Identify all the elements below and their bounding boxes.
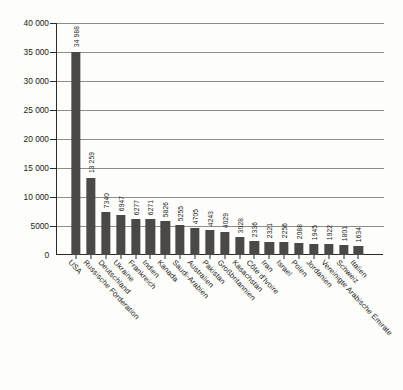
bar (116, 215, 125, 255)
bar-group: 2321 (262, 23, 277, 255)
bar-group: 6947 (113, 23, 128, 255)
bar-group: 5255 (173, 23, 188, 255)
bar-group: 1634 (351, 23, 366, 255)
bar-chart-figure: 0500010 00015 00020 00025 00030 00035 00… (0, 0, 403, 390)
bar-value-label: 6271 (147, 200, 154, 215)
bar (190, 228, 199, 255)
bar-group: 3028 (232, 23, 247, 255)
bar-value-label: 2088 (296, 224, 303, 239)
bar (324, 244, 333, 255)
bar-value-label: 7340 (102, 193, 109, 208)
y-axis-tick-label: 35 000 (0, 47, 56, 57)
bar-value-label: 6947 (117, 196, 124, 211)
bar-value-label: 1801 (340, 225, 347, 240)
bar (265, 242, 274, 255)
bar-group: 13 259 (83, 23, 98, 255)
bar-value-label: 2336 (251, 222, 258, 237)
bar-value-label: 3028 (236, 218, 243, 233)
bar-group: 2088 (292, 23, 307, 255)
bar-group: 4029 (217, 23, 232, 255)
bar-group: 2336 (247, 23, 262, 255)
bar (339, 245, 348, 255)
bar (101, 212, 110, 255)
bar-value-label: 4029 (221, 213, 228, 228)
bar-group: 34 988 (69, 23, 84, 255)
bar (205, 230, 214, 255)
bar-group: 5826 (158, 23, 173, 255)
bar (175, 225, 184, 255)
y-axis-tick-label: 15 000 (0, 163, 56, 173)
y-axis-tick-label: 40 000 (0, 18, 56, 28)
bar-group: 4243 (202, 23, 217, 255)
bar (309, 244, 318, 255)
y-axis-tick-label: 25 000 (0, 105, 56, 115)
bar-value-label: 6277 (132, 199, 139, 214)
bar-value-label: 1634 (355, 226, 362, 241)
bar-group: 1922 (321, 23, 336, 255)
bar (161, 221, 170, 255)
bar-value-label: 5826 (162, 202, 169, 217)
bar (235, 237, 244, 255)
bar-value-label: 2256 (281, 223, 288, 238)
y-axis-tick-label: 30 000 (0, 76, 56, 86)
bar-value-label: 34 988 (73, 26, 80, 47)
bar-group: 7340 (98, 23, 113, 255)
bar-value-label: 1922 (325, 225, 332, 240)
x-axis-category-label: USA (66, 258, 83, 276)
y-axis-tick-label: 10 000 (0, 192, 56, 202)
y-axis-tick-label: 0 (0, 250, 56, 260)
bar (131, 219, 140, 255)
bar (71, 52, 80, 255)
bar-value-label: 4243 (206, 211, 213, 226)
bars-layer: 34 98813 2597340694762776271582652554705… (56, 23, 383, 255)
y-axis-tick-label: 5000 (0, 221, 56, 231)
bar-value-label: 5255 (177, 205, 184, 220)
bar-value-label: 1945 (310, 225, 317, 240)
bar-value-label: 2321 (266, 222, 273, 237)
bar-group: 6271 (143, 23, 158, 255)
bar (220, 232, 229, 255)
bar (294, 243, 303, 255)
bar (354, 246, 363, 255)
bar-value-label: 4705 (191, 209, 198, 224)
x-axis-labels: USARussische FörderationDeutschlandUkrai… (56, 258, 403, 390)
bar-group: 6277 (128, 23, 143, 255)
bar-group: 1801 (336, 23, 351, 255)
bar-group: 4705 (188, 23, 203, 255)
bar-group: 1945 (306, 23, 321, 255)
bar (250, 241, 259, 255)
y-axis-tick-label: 20 000 (0, 134, 56, 144)
bar (279, 242, 288, 255)
bar-group: 2256 (277, 23, 292, 255)
bar-value-label: 13 259 (87, 152, 94, 173)
bar (146, 219, 155, 255)
bar (86, 178, 95, 255)
